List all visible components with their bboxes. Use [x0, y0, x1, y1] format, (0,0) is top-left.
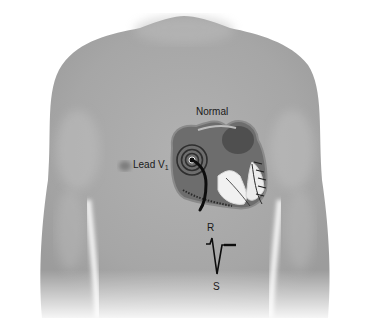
label-lead-subscript: 1: [165, 164, 169, 171]
chest-diagram: Normal Lead V1 R S: [0, 0, 368, 323]
label-r-wave: R: [207, 222, 214, 233]
electrode-v1-spot: [119, 161, 131, 171]
label-normal: Normal: [196, 106, 228, 117]
label-lead-text: Lead V: [133, 159, 165, 170]
torso-illustration: [0, 0, 368, 323]
heart-icon: [172, 121, 267, 210]
label-lead-v1: Lead V1: [133, 159, 169, 171]
label-s-wave: S: [213, 281, 220, 292]
